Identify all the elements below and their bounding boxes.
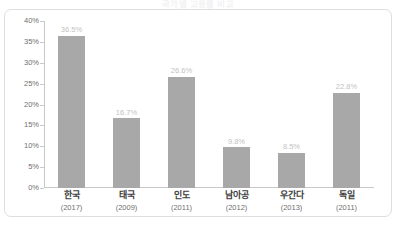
bar[interactable]: 22.8% — [333, 93, 360, 188]
bar-series: 36.5%16.7%26.6%9.8%8.5%22.8% — [44, 21, 374, 188]
y-axis-tick-label: 40% — [24, 17, 39, 25]
x-axis-labels: 한국(2017)태국(2009)인도(2011)남아공(2012)우간다(201… — [44, 190, 374, 212]
chart-title: 국가별 고용률 비교 — [0, 0, 396, 9]
x-axis-category-name: 우간다 — [264, 190, 319, 202]
x-axis-category-name: 태국 — [99, 190, 154, 202]
x-axis-category-year: (2011) — [154, 203, 209, 213]
bar[interactable]: 36.5% — [58, 36, 85, 188]
bar-wrap: 36.5% — [44, 36, 99, 188]
x-axis-category: 우간다(2013) — [264, 190, 319, 212]
x-axis-category-name: 인도 — [154, 190, 209, 202]
y-axis-tick-label: 10% — [24, 143, 39, 151]
bar-value-label: 16.7% — [116, 109, 137, 117]
y-axis-tick-label: 0% — [28, 184, 39, 192]
x-axis-category-year: (2011) — [319, 203, 374, 213]
x-axis-category: 인도(2011) — [154, 190, 209, 212]
bar-wrap: 8.5% — [264, 153, 319, 188]
bar[interactable]: 9.8% — [223, 147, 250, 188]
y-axis-tick-label: 5% — [28, 163, 39, 171]
y-axis-tick-label: 20% — [24, 101, 39, 109]
bar-group[interactable]: 22.8% — [319, 21, 374, 188]
bar[interactable]: 26.6% — [168, 77, 195, 188]
y-axis-tick-label: 35% — [24, 38, 39, 46]
bar-chart-figure: 국가별 고용률 비교 40%35%30%25%20%15%10%5%0% 36.… — [0, 0, 396, 226]
y-axis-tick-label: 30% — [24, 59, 39, 67]
x-axis-category: 한국(2017) — [44, 190, 99, 212]
x-axis-category-name: 한국 — [44, 190, 99, 202]
bar-group[interactable]: 36.5% — [44, 21, 99, 188]
bar-value-label: 22.8% — [336, 83, 357, 91]
bar-group[interactable]: 16.7% — [99, 21, 154, 188]
x-axis-category-name: 남아공 — [209, 190, 264, 202]
bar-value-label: 26.6% — [171, 67, 192, 75]
bar-value-label: 8.5% — [283, 143, 300, 151]
x-axis-category-year: (2009) — [99, 203, 154, 213]
x-axis-category-year: (2013) — [264, 203, 319, 213]
bar-group[interactable]: 9.8% — [209, 21, 264, 188]
bar[interactable]: 8.5% — [278, 153, 305, 188]
bar-wrap: 26.6% — [154, 77, 209, 188]
bar-wrap: 9.8% — [209, 147, 264, 188]
x-axis-category: 태국(2009) — [99, 190, 154, 212]
x-axis-category-name: 독일 — [319, 190, 374, 202]
bar-wrap: 22.8% — [319, 93, 374, 188]
x-axis-category: 독일(2011) — [319, 190, 374, 212]
y-axis-tick-label: 15% — [24, 122, 39, 130]
y-axis-tick-mark — [40, 188, 44, 189]
plot-area: 40%35%30%25%20%15%10%5%0% 36.5%16.7%26.6… — [44, 21, 374, 188]
bar[interactable]: 16.7% — [113, 118, 140, 188]
bar-wrap: 16.7% — [99, 118, 154, 188]
x-axis-category: 남아공(2012) — [209, 190, 264, 212]
x-axis-category-year: (2012) — [209, 203, 264, 213]
bar-value-label: 9.8% — [228, 138, 245, 146]
x-axis-category-year: (2017) — [44, 203, 99, 213]
bar-group[interactable]: 8.5% — [264, 21, 319, 188]
bar-group[interactable]: 26.6% — [154, 21, 209, 188]
y-axis-tick-label: 25% — [24, 80, 39, 88]
bar-value-label: 36.5% — [61, 26, 82, 34]
